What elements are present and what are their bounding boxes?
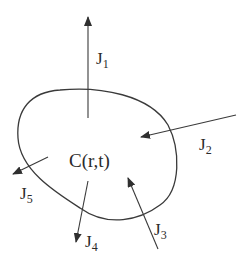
flux-label-j3: J3	[154, 220, 167, 242]
flux-label-j1: J1	[96, 49, 109, 71]
flux-label-j4: J4	[85, 232, 98, 254]
flux-arrow-j2	[141, 115, 236, 137]
flux-label-j5: J5	[20, 184, 33, 206]
flux-arrow-j5	[13, 157, 48, 174]
flux-label-j2: J2	[199, 135, 212, 157]
concentration-label: C(r,t)	[69, 150, 110, 172]
flux-diagram: C(r,t) J1 J2 J3 J4 J5	[0, 0, 246, 265]
